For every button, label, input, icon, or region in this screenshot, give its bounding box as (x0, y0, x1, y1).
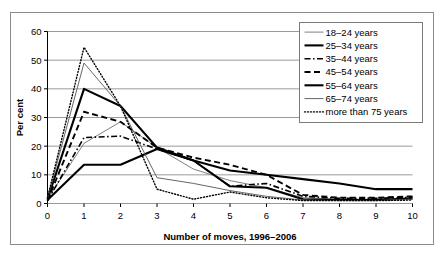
y-tick-labels: 0102030405060 (31, 26, 42, 209)
x-tick-label: 7 (300, 210, 305, 221)
series-line (48, 122, 413, 199)
y-tick-label: 0 (36, 198, 41, 209)
legend-label[interactable]: 18–24 years (326, 27, 379, 38)
line-chart: 0102030405060 012345678910 18–24 years25… (0, 0, 445, 260)
y-tick-label: 60 (31, 26, 42, 37)
x-tick-label: 10 (407, 210, 418, 221)
x-tick-labels: 012345678910 (45, 210, 418, 221)
x-tick-label: 5 (227, 210, 232, 221)
y-tick-label: 10 (31, 169, 42, 180)
legend-label[interactable]: 55–64 years (326, 80, 379, 91)
y-tick-label: 40 (31, 83, 42, 94)
legend-label[interactable]: more than 75 years (326, 106, 408, 117)
x-tick-label: 3 (154, 210, 159, 221)
legend-label[interactable]: 35–44 years (326, 53, 379, 64)
x-axis-title: Number of moves, 1996–2006 (163, 231, 296, 242)
x-tick-label: 6 (264, 210, 269, 221)
x-tick-label: 2 (118, 210, 123, 221)
x-tick-label: 8 (337, 210, 342, 221)
figure-container: 0102030405060 012345678910 18–24 years25… (0, 0, 445, 260)
x-tick-label: 0 (45, 210, 50, 221)
x-tick-label: 4 (191, 210, 196, 221)
chart-legend[interactable]: 18–24 years25–34 years35–44 years45–54 y… (300, 23, 423, 123)
x-tick-label: 9 (373, 210, 378, 221)
y-tick-label: 50 (31, 55, 42, 66)
legend-label[interactable]: 45–54 years (326, 66, 379, 77)
legend-label[interactable]: 65–74 years (326, 93, 379, 104)
y-tick-label: 30 (31, 112, 42, 123)
y-axis-title: Per cent (14, 98, 25, 136)
x-tick-label: 1 (81, 210, 86, 221)
legend-label[interactable]: 25–34 years (326, 40, 379, 51)
y-tick-label: 20 (31, 141, 42, 152)
